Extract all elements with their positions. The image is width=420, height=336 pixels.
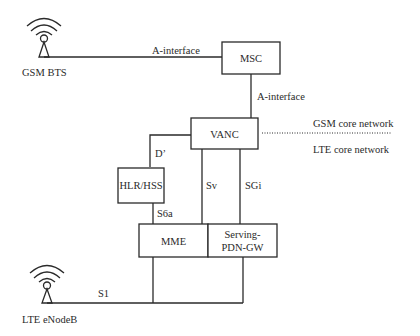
gsm-bts-antenna-icon: [27, 19, 61, 58]
serving-pdn-gw-label-line2: PDN-GW: [222, 242, 264, 253]
lte-enodeb-antenna-icon: [30, 266, 64, 304]
gsm-bts-label: GSM BTS: [22, 67, 67, 78]
label-d-prime: D’: [155, 148, 166, 159]
mme-label: MME: [161, 236, 186, 247]
label-s1: S1: [98, 288, 109, 299]
hlr-hss-label: HLR/HSS: [119, 180, 162, 191]
label-s6a: S6a: [157, 208, 173, 219]
label-sgi: SGi: [245, 180, 261, 191]
label-a-interface-bts-msc: A-interface: [152, 45, 200, 56]
lte-enodeb-label: LTE eNodeB: [22, 314, 77, 325]
label-a-interface-msc-vanc: A-interface: [257, 91, 305, 102]
network-architecture-diagram: GSM BTS A-interface MSC A-interface VANC…: [0, 0, 420, 336]
label-sv: Sv: [206, 180, 218, 191]
vanc-label: VANC: [210, 129, 238, 140]
lte-core-network-label: LTE core network: [313, 144, 390, 155]
serving-pdn-gw-label-line1: Serving-: [224, 229, 261, 240]
msc-label: MSC: [240, 53, 262, 64]
gsm-core-network-label: GSM core network: [313, 118, 394, 129]
